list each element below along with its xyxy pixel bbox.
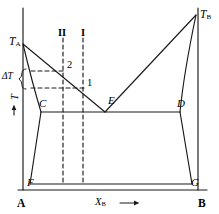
label-point-d: D bbox=[177, 98, 185, 109]
label-component-a: A bbox=[17, 198, 25, 210]
label-x-axis-title: XB bbox=[95, 197, 106, 208]
label-point-f: F bbox=[27, 177, 34, 188]
phase-diagram-figure: TA TB ΔT C D E F G 1 2 I II A B XB T bbox=[0, 0, 219, 214]
solvus-b-branch bbox=[180, 112, 192, 184]
label-point-2: 2 bbox=[67, 60, 72, 71]
label-melting-point-a: TA bbox=[9, 36, 21, 48]
liquidus-a-branch bbox=[23, 44, 105, 112]
label-delta-t: ΔT bbox=[2, 72, 13, 82]
x-axis-arrow-icon bbox=[120, 201, 139, 206]
label-point-1: 1 bbox=[87, 78, 92, 89]
label-point-g: G bbox=[191, 177, 199, 188]
y-axis-arrow-icon bbox=[12, 105, 17, 115]
label-component-b: B bbox=[198, 198, 206, 210]
solvus-a-branch bbox=[30, 112, 41, 184]
label-y-axis-title: T bbox=[10, 94, 21, 100]
label-melting-point-b: TB bbox=[200, 9, 211, 21]
label-point-c: C bbox=[39, 98, 46, 109]
label-vertical-line-i: I bbox=[81, 28, 85, 39]
label-point-e: E bbox=[108, 95, 115, 106]
label-vertical-line-ii: II bbox=[58, 28, 66, 39]
